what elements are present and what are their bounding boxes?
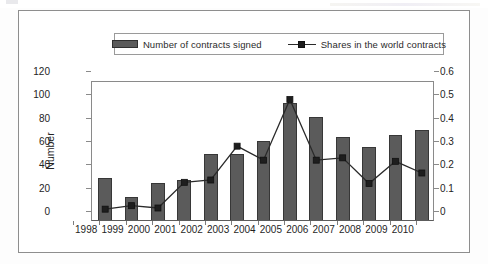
x-tick-label-2003: 2003	[207, 224, 229, 235]
line-marker-2008	[366, 181, 372, 187]
legend-entry-bar-series: Number of contracts signed	[112, 39, 262, 50]
y-right-tick-label-0.1: 0.1	[440, 182, 480, 193]
line-series-layer	[92, 82, 433, 220]
line-marker-2001	[181, 179, 187, 185]
y-right-tickmark-0.6	[434, 71, 439, 72]
y-right-tick-label-0.2: 0.2	[440, 159, 480, 170]
x-tick-label-2009: 2009	[365, 224, 387, 235]
y-right-tick-label-0.4: 0.4	[440, 112, 480, 123]
x-tickmark-0	[73, 221, 74, 225]
y-left-tick-label-60: 60	[10, 136, 50, 147]
plot-area	[91, 81, 434, 221]
x-tick-label-1999: 1999	[101, 224, 123, 235]
y-left-tick-label-40: 40	[10, 159, 50, 170]
legend-entry-line-series: Shares in the world contracts	[288, 39, 446, 50]
y-right-tick-label-0.5: 0.5	[440, 89, 480, 100]
chart-legend: Number of contracts signed Shares in the…	[114, 33, 444, 55]
x-tick-label-2002: 2002	[181, 224, 203, 235]
y-left-tick-label-0: 0	[10, 206, 50, 217]
x-tick-label-2005: 2005	[260, 224, 282, 235]
x-tick-label-2004: 2004	[233, 224, 255, 235]
line-marker-2010	[419, 170, 425, 176]
line-marker-2007	[340, 155, 346, 161]
legend-bar-series-label: Number of contracts signed	[143, 39, 262, 50]
line-series-svg	[92, 82, 435, 222]
x-tick-label-2008: 2008	[339, 224, 361, 235]
y-left-tickmark-120	[86, 71, 91, 72]
line-marker-2004	[261, 157, 267, 163]
legend-bar-swatch-icon	[112, 40, 138, 48]
line-marker-1998	[102, 206, 108, 212]
y-left-tick-label-120: 120	[10, 66, 50, 77]
y-right-tick-label-0: 0	[440, 206, 480, 217]
y-left-tick-label-80: 80	[10, 112, 50, 123]
line-marker-2009	[392, 158, 398, 164]
line-path	[105, 100, 422, 210]
y-left-tick-label-100: 100	[10, 89, 50, 100]
line-marker-2003	[234, 143, 240, 149]
line-marker-2002	[208, 177, 214, 183]
x-tick-label-1998: 1998	[75, 224, 97, 235]
figure-page: Number of contracts signed Shares in the…	[0, 0, 488, 264]
line-marker-2006	[313, 157, 319, 163]
legend-line-swatch-icon	[288, 40, 316, 49]
x-tick-label-2000: 2000	[128, 224, 150, 235]
x-tick-label-2007: 2007	[313, 224, 335, 235]
line-marker-2000	[155, 205, 161, 211]
legend-line-series-label: Shares in the world contracts	[321, 39, 446, 50]
line-marker-2005	[287, 97, 293, 103]
x-tick-label-2006: 2006	[286, 224, 308, 235]
scan-top-margin	[0, 0, 488, 8]
legend-square-marker-icon	[298, 41, 305, 48]
scan-artifact-mark	[6, 0, 18, 4]
y-left-tick-label-20: 20	[10, 182, 50, 193]
y-right-tick-label-0.6: 0.6	[440, 66, 480, 77]
x-tick-label-2010: 2010	[392, 224, 414, 235]
chart-frame: Number of contracts signed Shares in the…	[18, 10, 470, 253]
x-tick-label-2001: 2001	[154, 224, 176, 235]
y-right-tick-label-0.3: 0.3	[440, 136, 480, 147]
scan-artifact-tint	[330, 3, 480, 6]
line-marker-1999	[129, 203, 135, 209]
